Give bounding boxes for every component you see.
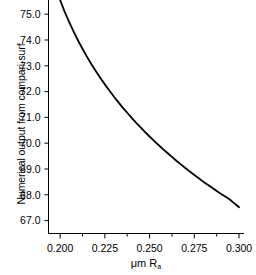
x-tick-label: 0.200 bbox=[47, 242, 73, 254]
x-axis-label-main: μm R bbox=[131, 257, 158, 269]
y-axis-label-text: Numerical output from compari-surf bbox=[15, 43, 27, 204]
x-axis-tick-labels: 0.2000.2250.2500.2750.300 bbox=[47, 242, 252, 254]
x-tick-label: 0.300 bbox=[226, 242, 252, 254]
x-tick-label: 0.225 bbox=[92, 242, 118, 254]
chart-figure: 67.068.069.070.071.072.073.074.075.0 0.2… bbox=[0, 0, 256, 275]
x-axis-label-text: μm Ra bbox=[131, 257, 161, 269]
x-axis-label-subscript: a bbox=[157, 263, 161, 270]
x-axis-label: μm Ra bbox=[48, 253, 244, 271]
data-series-line bbox=[60, 0, 239, 207]
y-axis-ticks bbox=[45, 14, 49, 220]
x-axis-ticks bbox=[60, 234, 239, 239]
y-axis-label: Numerical output from compari-surf bbox=[11, 9, 27, 239]
x-tick-label: 0.250 bbox=[136, 242, 162, 254]
chart-plot-area: 67.068.069.070.071.072.073.074.075.0 0.2… bbox=[0, 0, 256, 275]
x-tick-label: 0.275 bbox=[181, 242, 207, 254]
